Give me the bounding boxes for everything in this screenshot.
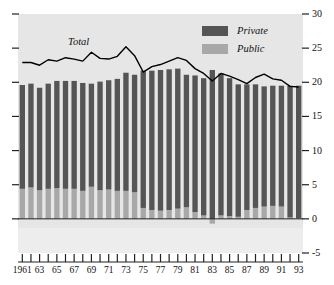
bar-private bbox=[80, 83, 85, 191]
y-tick-label: -5 bbox=[312, 247, 320, 258]
x-tick-label: 69 bbox=[87, 265, 97, 275]
x-tick-label: 73 bbox=[121, 265, 131, 275]
bar-public bbox=[106, 189, 111, 218]
bar-private bbox=[261, 86, 266, 206]
bar-private bbox=[201, 78, 206, 215]
bar-private bbox=[270, 86, 275, 206]
bar-public bbox=[54, 188, 59, 219]
bar-public bbox=[46, 189, 51, 219]
bar-public bbox=[89, 187, 94, 219]
bar-public bbox=[261, 207, 266, 219]
bar-private bbox=[236, 84, 241, 216]
bar-private bbox=[28, 84, 33, 188]
bar-public bbox=[192, 212, 197, 219]
x-tick-label: 83 bbox=[208, 265, 218, 275]
bar-private bbox=[184, 75, 189, 207]
y-tick-label: 20 bbox=[312, 76, 322, 87]
y-tick-label: 15 bbox=[312, 110, 322, 121]
bar-public bbox=[141, 208, 146, 219]
x-tick-label: 65 bbox=[52, 265, 62, 275]
bar-private bbox=[37, 88, 42, 190]
bar-public bbox=[175, 209, 180, 219]
bar-private bbox=[287, 86, 292, 218]
x-tick-label: 85 bbox=[225, 265, 235, 275]
bar-private bbox=[210, 70, 215, 219]
x-tick-label: 71 bbox=[104, 265, 114, 275]
legend-label-public: Public bbox=[237, 43, 264, 54]
bar-private bbox=[253, 84, 258, 208]
x-tick-label: 67 bbox=[69, 265, 79, 275]
bar-private bbox=[218, 73, 223, 215]
x-tick-label: 93 bbox=[294, 265, 304, 275]
bar-private bbox=[279, 86, 284, 207]
chart-legend: Private Public bbox=[202, 24, 298, 60]
bar-public bbox=[115, 191, 120, 219]
y-tick-label: 10 bbox=[312, 145, 322, 156]
x-tick-label: 63 bbox=[35, 265, 45, 275]
bar-public bbox=[80, 191, 85, 219]
x-tick-label: 79 bbox=[173, 265, 183, 275]
x-tick-label: 1961 bbox=[13, 265, 32, 275]
x-tick-label: 81 bbox=[190, 265, 200, 275]
x-tick-label: 87 bbox=[242, 265, 252, 275]
bar-private bbox=[132, 75, 137, 192]
bar-public bbox=[37, 190, 42, 219]
bar-private bbox=[175, 69, 180, 209]
investment-chart: -5051015202530 1961636567697173757779818… bbox=[0, 0, 334, 285]
bar-private bbox=[244, 84, 249, 210]
bar-public bbox=[218, 215, 223, 218]
bar-public bbox=[270, 206, 275, 219]
bar-public bbox=[166, 210, 171, 219]
bar-public bbox=[184, 207, 189, 219]
bars-group bbox=[20, 69, 302, 224]
y-tick-label: 0 bbox=[312, 213, 317, 224]
bar-public bbox=[253, 208, 258, 219]
bar-public bbox=[63, 189, 68, 219]
bar-public bbox=[210, 219, 215, 224]
bar-private bbox=[227, 78, 232, 216]
bar-public bbox=[158, 211, 163, 219]
total-line-annotation: Total bbox=[68, 36, 89, 47]
bar-private bbox=[20, 85, 25, 189]
legend-item-public[interactable]: Public bbox=[202, 42, 298, 55]
bar-public bbox=[244, 210, 249, 219]
bar-private bbox=[115, 79, 120, 191]
bar-public bbox=[28, 187, 33, 218]
bar-private bbox=[149, 71, 154, 210]
bar-public bbox=[97, 190, 102, 219]
bar-public bbox=[132, 192, 137, 219]
bar-private bbox=[71, 81, 76, 189]
bar-public bbox=[123, 191, 128, 219]
legend-swatch-public bbox=[202, 44, 228, 54]
bar-private bbox=[158, 70, 163, 211]
bar-public bbox=[149, 210, 154, 219]
x-tick-label: 75 bbox=[138, 265, 148, 275]
bar-private bbox=[46, 84, 51, 189]
bar-public bbox=[279, 207, 284, 219]
bar-private bbox=[54, 81, 59, 188]
y-tick-label: 5 bbox=[312, 179, 317, 190]
bar-private bbox=[106, 80, 111, 189]
bar-public bbox=[71, 189, 76, 219]
bar-private bbox=[296, 86, 301, 218]
x-tick-label: 77 bbox=[156, 265, 166, 275]
bar-private bbox=[97, 82, 102, 191]
legend-swatch-private bbox=[202, 26, 228, 36]
y-tick-label: 25 bbox=[312, 42, 322, 53]
legend-label-private: Private bbox=[237, 25, 268, 36]
legend-item-private[interactable]: Private bbox=[202, 24, 298, 37]
bar-private bbox=[192, 75, 197, 212]
bar-public bbox=[20, 189, 25, 219]
x-tick-label: 91 bbox=[277, 265, 287, 275]
bar-private bbox=[89, 84, 94, 187]
bar-private bbox=[141, 71, 146, 208]
x-tick-label: 89 bbox=[259, 265, 269, 275]
y-tick-label: 30 bbox=[312, 8, 322, 19]
bar-private bbox=[166, 69, 171, 210]
bar-public bbox=[201, 215, 206, 218]
bar-private bbox=[63, 81, 68, 189]
bar-private bbox=[123, 73, 128, 191]
